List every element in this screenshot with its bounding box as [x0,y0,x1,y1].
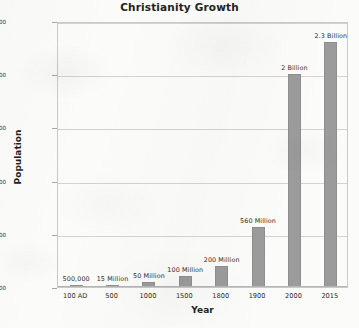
bar-value-label: 2.3 Billion [314,32,347,40]
bar[interactable] [324,42,337,287]
y-axis-tick-label: 1,000,500,000 [0,179,6,185]
y-axis-tick-label: 2,000,500,000 [0,72,6,78]
y-axis-tick-mark [52,128,57,129]
y-axis-tick-mark [52,182,57,183]
bar-chart: Christianity Growth Population 500,00015… [0,0,359,328]
y-axis-tick-label: 500,500,000 [0,232,6,238]
y-axis-title: Population [13,112,23,202]
x-axis-title: Year [57,305,348,315]
y-axis-tick-mark [52,235,57,236]
y-axis-tick-mark [52,75,57,76]
bar[interactable] [252,227,265,287]
plot-area: 500,00015 Million50 Million100 Million20… [57,22,348,288]
bar-group[interactable]: 2.3 Billion [301,23,359,287]
y-axis-tick-mark [52,22,57,23]
x-axis-line [58,286,347,287]
y-axis-tick-mark [52,288,57,289]
chart-title: Christianity Growth [0,1,359,13]
x-axis-tick-label: 2015 [300,292,359,300]
y-axis-tick-label: 2,500,500,000 [0,19,6,25]
bar[interactable] [288,74,301,287]
y-axis-tick-label: 500,000 [0,285,6,291]
y-axis-tick-label: 1,500,500,000 [0,125,6,131]
bar[interactable] [215,266,228,287]
